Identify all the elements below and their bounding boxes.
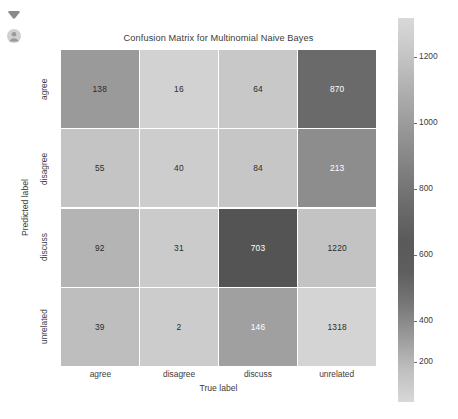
colorbar-tick-mark bbox=[414, 189, 417, 190]
heatmap-cell-value: 84 bbox=[253, 163, 263, 173]
colorbar-tick-label: 600 bbox=[419, 249, 433, 259]
heatmap-cell-value: 64 bbox=[253, 84, 263, 94]
heatmap-cell: 1318 bbox=[298, 288, 376, 366]
heatmap-grid: 1381664870554084213923170312203921461318 bbox=[61, 50, 376, 366]
colorbar-tick-label: 1000 bbox=[419, 117, 438, 127]
chart-title: Confusion Matrix for Multinomial Naive B… bbox=[61, 33, 376, 43]
y-axis-tick-labels: agreedisagreediscussunrelated bbox=[36, 50, 52, 366]
colorbar-tick-mark bbox=[414, 123, 417, 124]
heatmap-cell-value: 146 bbox=[251, 322, 266, 332]
colorbar-tick: 1000 bbox=[414, 123, 456, 124]
heatmap-cell-value: 39 bbox=[95, 322, 105, 332]
colorbar-tick: 1200 bbox=[414, 57, 456, 58]
colorbar-tick-label: 400 bbox=[419, 315, 433, 325]
heatmap-cell: 1220 bbox=[298, 209, 376, 287]
heatmap-cell-value: 31 bbox=[174, 243, 184, 253]
y-tick-discuss: discuss bbox=[36, 208, 52, 287]
colorbar-tick-label: 1200 bbox=[419, 51, 438, 61]
heatmap-cell-value: 2 bbox=[177, 322, 182, 332]
heatmap-cell: 138 bbox=[61, 50, 139, 128]
heatmap-cell-value: 1220 bbox=[327, 243, 346, 253]
x-axis-tick-labels: agreedisagreediscussunrelated bbox=[61, 369, 376, 383]
heatmap-cell-value: 92 bbox=[95, 243, 105, 253]
heatmap-cell-value: 870 bbox=[330, 84, 345, 94]
y-axis-label: Predicted label bbox=[18, 50, 32, 366]
heatmap-cell-value: 703 bbox=[251, 243, 266, 253]
heatmap-cell-value: 40 bbox=[174, 163, 184, 173]
colorbar-tick-mark bbox=[414, 57, 417, 58]
x-tick-unrelated: unrelated bbox=[297, 369, 376, 383]
heatmap-cell: 16 bbox=[140, 50, 218, 128]
y-tick-unrelated: unrelated bbox=[36, 287, 52, 366]
y-tick-agree: agree bbox=[36, 50, 52, 129]
colorbar-tick: 800 bbox=[414, 189, 456, 190]
colorbar-tick-label: 200 bbox=[419, 356, 433, 366]
colorbar-gradient bbox=[398, 18, 414, 402]
heatmap-cell: 146 bbox=[219, 288, 297, 366]
heatmap-cell-value: 138 bbox=[93, 84, 108, 94]
heatmap-cell: 84 bbox=[219, 129, 297, 207]
heatmap-cell: 39 bbox=[61, 288, 139, 366]
heatmap-cell: 31 bbox=[140, 209, 218, 287]
heatmap-cell-value: 55 bbox=[95, 163, 105, 173]
confusion-matrix-figure: Confusion Matrix for Multinomial Naive B… bbox=[0, 0, 458, 419]
colorbar-tick-mark bbox=[414, 255, 417, 256]
colorbar-tick-mark bbox=[414, 362, 417, 363]
heatmap-cell: 703 bbox=[219, 209, 297, 287]
heatmap-cell-value: 16 bbox=[174, 84, 184, 94]
colorbar-tick-mark bbox=[414, 321, 417, 322]
x-tick-agree: agree bbox=[61, 369, 140, 383]
colorbar-tick: 400 bbox=[414, 321, 456, 322]
heatmap-cell: 64 bbox=[219, 50, 297, 128]
colorbar-tick: 600 bbox=[414, 255, 456, 256]
heatmap-cell: 92 bbox=[61, 209, 139, 287]
y-tick-disagree: disagree bbox=[36, 129, 52, 208]
heatmap-cell: 55 bbox=[61, 129, 139, 207]
colorbar: 12001000800600400200 bbox=[398, 18, 458, 402]
heatmap-cell: 870 bbox=[298, 50, 376, 128]
x-axis-label: True label bbox=[61, 383, 376, 393]
x-tick-discuss: discuss bbox=[219, 369, 298, 383]
heatmap-cell-value: 213 bbox=[330, 163, 345, 173]
colorbar-tick: 200 bbox=[414, 362, 456, 363]
heatmap-cell: 213 bbox=[298, 129, 376, 207]
colorbar-tick-label: 800 bbox=[419, 183, 433, 193]
x-tick-disagree: disagree bbox=[140, 369, 219, 383]
heatmap-cell: 40 bbox=[140, 129, 218, 207]
heatmap-cell: 2 bbox=[140, 288, 218, 366]
heatmap-cell-value: 1318 bbox=[327, 322, 346, 332]
